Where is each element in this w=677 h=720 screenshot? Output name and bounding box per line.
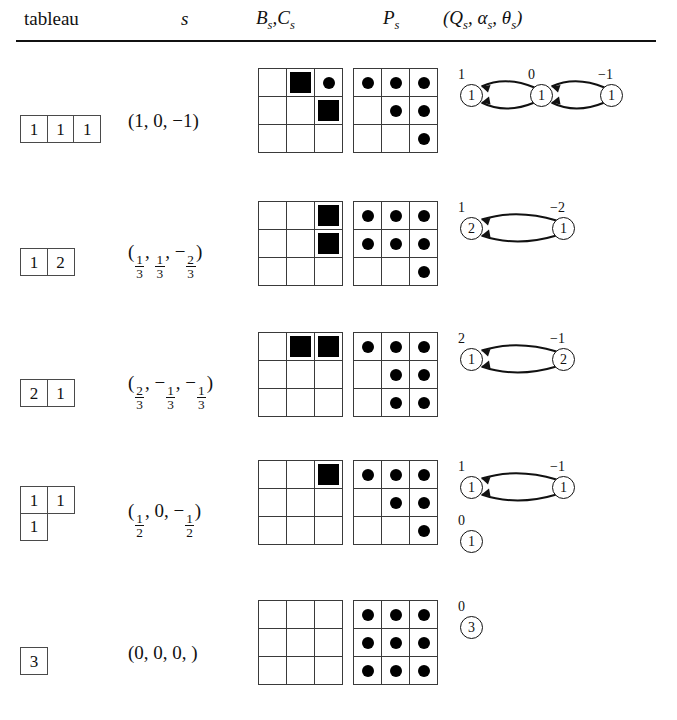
grid-cell-empty	[314, 388, 343, 417]
grid-cell-dot	[381, 628, 410, 657]
grid-cell-empty	[258, 460, 287, 489]
p-grid	[353, 201, 437, 285]
tableau-cell: 2	[20, 379, 48, 407]
tableau-row: 21	[20, 379, 73, 406]
tableau-cell: 1	[47, 379, 75, 407]
grid-cell-dot	[409, 332, 438, 361]
quiver-node-label: −1	[550, 331, 565, 347]
grid-cell-empty	[258, 656, 287, 685]
grid-cell-dot	[409, 600, 438, 629]
young-tableau: 111	[20, 115, 100, 142]
grid-cell-empty	[286, 488, 315, 517]
grid-cell-dot	[409, 516, 438, 545]
p-grid	[353, 460, 437, 544]
quiver-node-label: −2	[550, 200, 565, 216]
grid-cell-empty	[258, 516, 287, 545]
quiver-node-label: 1	[458, 67, 465, 83]
grid-cell-dot	[409, 68, 438, 97]
grid-cell-empty	[286, 229, 315, 258]
grid-cell-dot	[381, 656, 410, 685]
grid-cell-dot	[381, 600, 410, 629]
quiver-node[interactable]: 2	[552, 348, 575, 371]
tableau-cell: 1	[73, 115, 101, 143]
grid-cell-filled-square	[286, 68, 315, 97]
header-bs-cs: Bs,Cs	[256, 7, 295, 33]
header-q: (Q	[443, 7, 463, 28]
quiver-node[interactable]: 1	[552, 217, 575, 240]
header-ps: Ps	[383, 7, 400, 33]
header-q-close: )	[516, 7, 522, 28]
grid-cell-empty	[353, 388, 382, 417]
bc-grid	[258, 600, 342, 684]
quiver-node-label: 1	[458, 200, 465, 216]
grid-cell-empty	[286, 201, 315, 230]
grid-cell-empty	[314, 600, 343, 629]
header-qs-alpha-theta: (Qs, αs, θs)	[443, 7, 522, 33]
header-rule	[16, 40, 656, 42]
grid-cell-empty	[381, 257, 410, 286]
grid-cell-empty	[286, 388, 315, 417]
quiver-diagram: 12−21	[452, 193, 662, 313]
grid-cell-filled-square	[314, 460, 343, 489]
header-tableau: tableau	[24, 8, 79, 30]
grid-cell-empty	[286, 360, 315, 389]
grid-cell-empty	[258, 600, 287, 629]
grid-cell-filled-square	[314, 229, 343, 258]
grid-cell-empty	[258, 257, 287, 286]
grid-cell-dot	[381, 68, 410, 97]
grid-cell-dot	[409, 488, 438, 517]
grid-cell-empty	[353, 516, 382, 545]
quiver-arrows	[452, 60, 667, 180]
quiver-node[interactable]: 1	[460, 530, 483, 553]
grid-cell-empty	[258, 201, 287, 230]
quiver-node[interactable]: 1	[460, 476, 483, 499]
quiver-node[interactable]: 3	[460, 616, 483, 639]
quiver-node[interactable]: 1	[460, 84, 483, 107]
tableau-cell: 1	[47, 486, 75, 514]
tableau-cell: 2	[47, 248, 75, 276]
s-vector: (13, 13, −23)	[128, 241, 202, 281]
grid-cell-filled-square	[314, 332, 343, 361]
grid-cell-filled-square	[314, 201, 343, 230]
quiver-node[interactable]: 1	[460, 348, 483, 371]
grid-cell-dot	[409, 388, 438, 417]
grid-cell-empty	[286, 460, 315, 489]
s-vector: (23, −13, −13)	[128, 372, 213, 412]
grid-cell-empty	[314, 360, 343, 389]
tableau-row: 3	[20, 647, 47, 674]
quiver-node-label: 0	[458, 599, 465, 615]
grid-cell-dot	[409, 360, 438, 389]
young-tableau: 12	[20, 248, 73, 275]
s-vector: (1, 0, −1)	[128, 110, 199, 132]
grid-cell-dot	[381, 96, 410, 125]
s-vector: (12, 0, −12)	[128, 500, 201, 540]
grid-cell-dot	[353, 332, 382, 361]
grid-cell-empty	[314, 656, 343, 685]
tableau-row: 1	[20, 513, 73, 540]
grid-cell-dot	[353, 68, 382, 97]
tableau-cell: 1	[47, 115, 75, 143]
grid-cell-empty	[258, 124, 287, 153]
grid-cell-empty	[258, 488, 287, 517]
grid-cell-empty	[353, 96, 382, 125]
quiver-node[interactable]: 1	[600, 84, 623, 107]
grid-cell-dot	[381, 488, 410, 517]
quiver-node-label: 0	[458, 513, 465, 529]
grid-cell-dot	[381, 332, 410, 361]
grid-cell-dot	[314, 68, 343, 97]
quiver-node[interactable]: 2	[460, 217, 483, 240]
header-p-sub: s	[395, 18, 400, 32]
header-p: P	[383, 7, 395, 28]
tableau-cell: 1	[20, 115, 48, 143]
grid-cell-empty	[258, 628, 287, 657]
quiver-node[interactable]: 1	[530, 84, 553, 107]
figure-page: tableau s Bs,Cs Ps (Qs, αs, θs) 111(1, 0…	[0, 0, 677, 720]
header-c-sub: s	[290, 18, 295, 32]
grid-cell-empty	[381, 516, 410, 545]
grid-cell-empty	[286, 656, 315, 685]
p-grid	[353, 68, 437, 152]
grid-cell-empty	[286, 96, 315, 125]
quiver-node[interactable]: 1	[552, 476, 575, 499]
grid-cell-dot	[381, 360, 410, 389]
quiver-node-label: 2	[458, 331, 465, 347]
